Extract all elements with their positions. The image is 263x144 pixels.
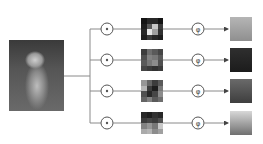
output-image [230, 17, 252, 41]
svg-text:φ: φ [196, 57, 201, 65]
output-image [230, 48, 252, 72]
attention-heatmap [141, 112, 163, 134]
svg-text:φ: φ [196, 120, 201, 128]
svg-text:φ: φ [196, 88, 201, 96]
attention-heatmap [141, 49, 163, 71]
input-image [9, 40, 64, 111]
svg-text:φ: φ [196, 26, 201, 34]
attention-heatmap [141, 18, 163, 40]
attention-heatmap [141, 80, 163, 102]
output-image [230, 111, 252, 135]
output-image [230, 79, 252, 103]
